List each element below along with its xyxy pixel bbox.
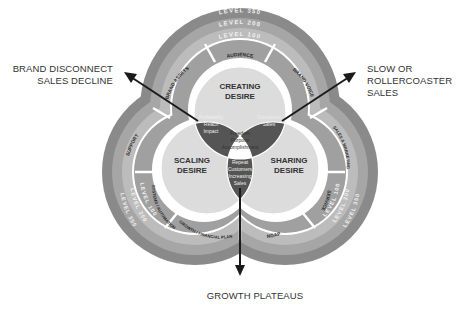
creating-desire-title-line2: DESIRE: [225, 92, 255, 101]
callout-right-line1: SLOW OR: [367, 63, 452, 75]
overlap-top-right-line2: Sales: [263, 121, 276, 127]
arrow-down-head-icon: [235, 265, 245, 276]
callout-left-line2: SALES DECLINE: [0, 75, 113, 87]
overlap-top-right-line1: Consistent: [257, 114, 281, 120]
center-line1: Freedom: [230, 130, 250, 136]
arrow-left-head-icon: [124, 72, 137, 83]
overlap-bottom-line1: Repeat: [232, 159, 249, 165]
overlap-bottom-line4: Sales: [234, 180, 247, 186]
callout-brand-disconnect: BRAND DISCONNECT SALES DECLINE: [0, 63, 113, 87]
callout-bottom-line1: GROWTH PLATEAUS: [195, 290, 315, 302]
overlap-top-left-line3: Impact: [203, 128, 219, 134]
callout-left-line1: BRAND DISCONNECT: [0, 63, 113, 75]
center-line2: Purpose: [231, 137, 250, 143]
sharing-desire-title-line1: SHARING: [271, 156, 308, 165]
three-desire-diagram: LEVEL 350 LEVEL 200 LEVEL 100 LEVEL 350 …: [0, 0, 468, 312]
overlap-top-left-line2: Reach: [204, 121, 219, 127]
center-line3: Accomplishment: [222, 144, 259, 150]
arrow-right-head-icon: [343, 72, 356, 83]
creating-desire-title-line1: CREATING: [219, 82, 260, 91]
callout-slow-sales: SLOW OR ROLLERCOASTER SALES: [367, 63, 452, 99]
scaling-desire-title-line1: SCALING: [174, 156, 210, 165]
overlap-bottom-line3: Increasing: [228, 173, 251, 179]
overlap-top-left-line1: Profitability: [199, 114, 224, 120]
overlap-bottom-line2: Customers: [228, 166, 253, 172]
sharing-desire-title-line2: DESIRE: [274, 166, 304, 175]
callout-right-line2: ROLLERCOASTER: [367, 75, 452, 87]
scaling-desire-title-line2: DESIRE: [177, 166, 207, 175]
callout-growth-plateaus: GROWTH PLATEAUS: [195, 290, 315, 302]
callout-right-line3: SALES: [367, 87, 452, 99]
